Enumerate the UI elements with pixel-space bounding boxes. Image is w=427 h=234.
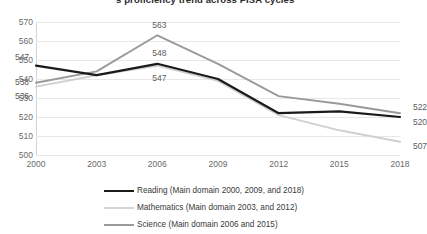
- x-axis-tick: 2018: [391, 159, 410, 169]
- data-label: 547: [152, 73, 166, 83]
- legend-label-science: Science (Main domain 2006 and 2015): [137, 220, 278, 229]
- data-label: 507: [413, 141, 427, 151]
- y-axis-tick: 560: [3, 37, 33, 45]
- data-label: 563: [152, 20, 166, 30]
- x-axis-tick: 2000: [27, 159, 46, 169]
- series-lines: [36, 22, 400, 155]
- legend-item[interactable]: Mathematics (Main domain 2003, and 2012): [0, 199, 408, 216]
- x-axis-tick-labels: 2000200320062009201220152018: [36, 159, 400, 173]
- legend-label-mathematics: Mathematics (Main domain 2003, and 2012): [137, 203, 297, 212]
- data-label: 536: [15, 91, 29, 101]
- data-label: 548: [152, 48, 166, 58]
- legend-swatch-science: [104, 224, 134, 226]
- x-axis-tick: 2006: [148, 159, 167, 169]
- legend-item[interactable]: Reading (Main domain 2000, 2009, and 201…: [0, 182, 408, 199]
- y-axis-tick: 520: [3, 113, 33, 121]
- legend-swatch-reading: [104, 190, 134, 192]
- data-label: 538: [15, 77, 29, 87]
- x-axis-tick: 2009: [209, 159, 228, 169]
- x-axis-tick: 2015: [330, 159, 349, 169]
- data-label: 547: [15, 52, 29, 62]
- chart-title: 's proficiency trend across PISA cycles: [0, 0, 408, 5]
- y-axis-tick-labels: 500510520530540550560570: [0, 22, 33, 155]
- plot-area: 547548520536547507538563522: [36, 22, 400, 155]
- y-axis-tick: 570: [3, 18, 33, 26]
- legend-swatch-mathematics: [104, 207, 134, 209]
- data-label: 522: [413, 102, 427, 112]
- legend-item[interactable]: Science (Main domain 2006 and 2015): [0, 216, 408, 233]
- x-axis-tick: 2003: [87, 159, 106, 169]
- y-axis-tick: 500: [3, 151, 33, 159]
- legend-label-reading: Reading (Main domain 2000, 2009, and 201…: [137, 186, 304, 195]
- y-axis-tick: 510: [3, 132, 33, 140]
- data-label: 520: [413, 117, 427, 127]
- gridline: [36, 155, 400, 156]
- x-axis-tick: 2012: [269, 159, 288, 169]
- chart-legend: Reading (Main domain 2000, 2009, and 201…: [0, 182, 408, 233]
